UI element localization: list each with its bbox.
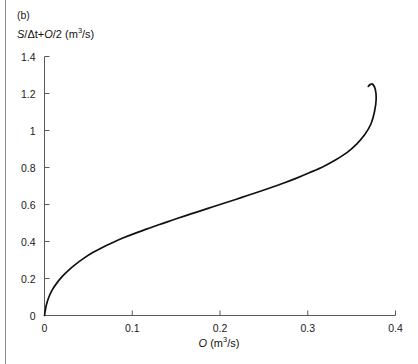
tick-labels: 00.20.40.60.811.21.400.10.20.30.4 — [21, 51, 403, 334]
y-tick-label: 0.2 — [21, 273, 36, 285]
x-axis-title-o: O — [199, 337, 208, 349]
y-tick-label: 1.2 — [21, 88, 36, 100]
figure-panel-b: (b) S/Δt+O/2 (m3/s) 00.20.40.60.811.21.4… — [0, 0, 418, 364]
x-tick-label: 0.2 — [213, 322, 228, 334]
y-tick-label: 0 — [30, 310, 36, 322]
y-tick-label: 1 — [30, 125, 36, 137]
plot-area: 00.20.40.60.811.21.400.10.20.30.4 — [0, 0, 418, 364]
x-tick-label: 0.1 — [125, 322, 140, 334]
x-axis-title-units-suffix: /s) — [227, 337, 239, 349]
axes — [45, 57, 396, 316]
y-tick-label: 1.4 — [21, 51, 36, 63]
x-tick-label: 0.3 — [300, 322, 315, 334]
data-curve-storage-outflow — [45, 84, 377, 316]
x-axis-title: O (m3/s) — [0, 337, 418, 350]
x-axis-title-units-prefix: (m — [207, 337, 223, 349]
y-tick-label: 0.8 — [21, 162, 36, 174]
x-tick-label: 0 — [42, 322, 48, 334]
y-tick-label: 0.6 — [21, 199, 36, 211]
y-tick-label: 0.4 — [21, 236, 36, 248]
x-tick-label: 0.4 — [388, 322, 403, 334]
